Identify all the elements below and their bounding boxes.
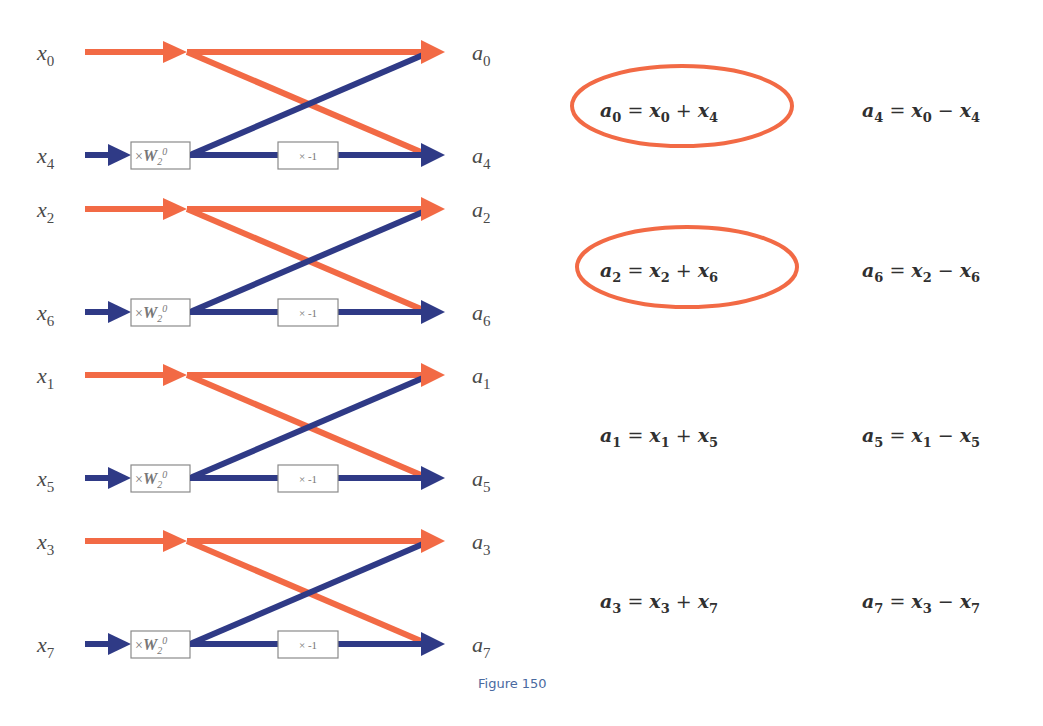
negate-label: × -1 [299, 150, 317, 162]
blue-input-arrowhead [108, 467, 131, 489]
output-bottom-arrowhead [421, 466, 445, 490]
butterfly-2: ×W20 × -1 x1 x5 a1 a5 [36, 363, 491, 495]
blue-input-arrowhead [108, 144, 131, 166]
output-label-bottom: a5 [472, 466, 491, 495]
input-label-bottom: x7 [36, 632, 55, 661]
output-top-arrowhead [421, 40, 445, 64]
output-bottom-arrowhead [421, 300, 445, 324]
output-label-bottom: a6 [472, 300, 491, 329]
negate-label: × -1 [299, 473, 317, 485]
output-top-arrowhead [421, 363, 445, 387]
input-label-bottom: x4 [36, 143, 55, 172]
blue-input-arrowhead [108, 633, 131, 655]
equation-sum-3: a3 = x3 + x7 [600, 590, 718, 616]
equation-diff-2: a5 = x1 − x5 [862, 424, 980, 450]
output-label-top: a2 [472, 197, 491, 226]
equation-diff-0: a4 = x0 − x4 [862, 99, 980, 125]
output-bottom-arrowhead [421, 143, 445, 167]
output-label-bottom: a4 [472, 143, 491, 172]
equation-diff-3: a7 = x3 − x7 [862, 590, 980, 616]
input-label-top: x0 [36, 40, 54, 69]
output-bottom-arrowhead [421, 632, 445, 656]
negate-label: × -1 [299, 307, 317, 319]
output-label-bottom: a7 [472, 632, 491, 661]
output-top-arrowhead [421, 197, 445, 221]
orange-input-arrowhead [163, 530, 187, 552]
blue-input-arrowhead [108, 301, 131, 323]
input-label-top: x3 [36, 529, 54, 558]
orange-input-arrowhead [163, 364, 187, 386]
equation-sum-1: a2 = x2 + x6 [600, 259, 718, 285]
input-label-top: x1 [36, 363, 54, 392]
output-label-top: a3 [472, 529, 491, 558]
equation-sum-2: a1 = x1 + x5 [600, 424, 718, 450]
orange-input-arrowhead [163, 41, 187, 63]
output-label-top: a1 [472, 363, 491, 392]
butterfly-1: ×W20 × -1 x2 x6 a2 a6 [36, 197, 491, 329]
input-label-top: x2 [36, 197, 54, 226]
equation-sum-0: a0 = x0 + x4 [600, 99, 718, 125]
input-label-bottom: x6 [36, 300, 55, 329]
orange-input-arrowhead [163, 198, 187, 220]
output-top-arrowhead [421, 529, 445, 553]
butterfly-0: ×W20 × -1 x0 x4 a0 a4 [36, 40, 491, 172]
output-label-top: a0 [472, 40, 491, 69]
negate-label: × -1 [299, 639, 317, 651]
fft-butterfly-figure: ×W20 × -1 x0 x4 a0 a4 ×W20 × -1 x2 x6 a2… [0, 0, 1043, 726]
input-label-bottom: x5 [36, 466, 54, 495]
figure-caption: Figure 150 [478, 676, 547, 691]
butterfly-3: ×W20 × -1 x3 x7 a3 a7 [36, 529, 491, 661]
equation-diff-1: a6 = x2 − x6 [862, 259, 980, 285]
